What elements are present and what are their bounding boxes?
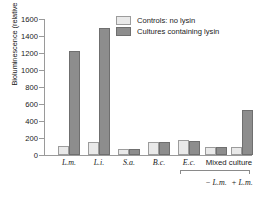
x-axis-sub-label: + L.m. (231, 178, 253, 187)
y-axis-title: Bioluminescence (relative light units) (10, 0, 19, 97)
mixed-culture-bracket (180, 170, 250, 174)
bar-lysin (129, 149, 140, 155)
legend-label-lysin: Cultures containing lysin (137, 27, 219, 36)
light-gray-swatch-icon (116, 16, 131, 25)
y-tick-label: 1400 (21, 32, 38, 41)
y-tick-mark (39, 87, 44, 88)
bar-group (205, 147, 227, 155)
bar-lysin (159, 142, 170, 155)
legend-label-controls: Controls: no lysin (137, 16, 195, 25)
bar-lysin (99, 28, 110, 155)
legend-item-lysin: Cultures containing lysin (116, 27, 219, 36)
bar-control (118, 149, 129, 155)
x-axis-label: L.i. (94, 158, 105, 167)
chart-legend: Controls: no lysin Cultures containing l… (116, 16, 219, 38)
x-axis-label-mixed-culture: Mixed culture (206, 158, 252, 167)
x-axis-sub-label: − L.m. (205, 178, 227, 187)
y-tick-label: 1600 (21, 15, 38, 24)
y-tick-label: 600 (25, 100, 38, 109)
x-axis-labels: L.m.L.i.S.a.B.c.E.c.Mixed culture (44, 158, 252, 170)
y-tick-label: 400 (25, 117, 38, 126)
bar-group (58, 51, 80, 155)
dark-gray-swatch-icon (116, 27, 131, 36)
bar-group (231, 110, 253, 155)
y-tick-mark (39, 104, 44, 105)
bar-lysin (216, 147, 227, 155)
bar-group (88, 28, 110, 155)
y-tick-mark (39, 121, 44, 122)
x-axis-label: B.c. (153, 158, 165, 167)
y-tick-mark (39, 138, 44, 139)
bar-group (118, 149, 140, 155)
bar-series-container (45, 19, 252, 155)
x-axis-label: S.a. (123, 158, 135, 167)
x-axis-label: L.m. (62, 158, 76, 167)
y-tick-label: 0 (34, 151, 38, 160)
bar-group (178, 140, 200, 155)
y-tick-label: 1200 (21, 49, 38, 58)
bar-lysin (242, 110, 253, 155)
bar-lysin (189, 141, 200, 155)
bar-group (148, 142, 170, 155)
plot-area: 16001400120010008006004002000 (44, 19, 252, 156)
bar-lysin (69, 51, 80, 155)
y-tick-mark (39, 70, 44, 71)
bar-control (58, 146, 69, 155)
y-tick-mark (39, 19, 44, 20)
y-tick-mark (39, 36, 44, 37)
y-tick-label: 1000 (21, 66, 38, 75)
bar-control (88, 142, 99, 155)
legend-item-controls: Controls: no lysin (116, 16, 219, 25)
bar-control (148, 142, 159, 155)
bar-chart-figure: Bioluminescence (relative light units) 1… (0, 0, 266, 202)
x-axis-line (44, 155, 252, 156)
bar-control (205, 147, 216, 155)
x-axis-label: E.c. (183, 158, 195, 167)
y-tick-label: 200 (25, 134, 38, 143)
bar-control (231, 147, 242, 156)
y-tick-mark (39, 155, 44, 156)
y-tick-mark (39, 53, 44, 54)
y-tick-label: 800 (25, 83, 38, 92)
bar-control (178, 140, 189, 155)
x-axis-sub-labels: − L.m.+ L.m. (44, 178, 252, 190)
